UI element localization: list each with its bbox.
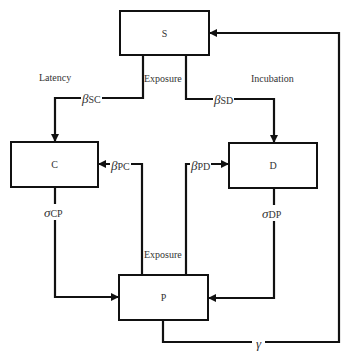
rate-beta-sd: βSD	[213, 91, 234, 107]
rate-gamma-ps: γ	[252, 335, 265, 351]
node-s-label: S	[162, 28, 168, 39]
rate-sigma-dp: σDP	[261, 205, 282, 221]
node-c-label: C	[51, 159, 58, 170]
edge-p-to-d	[186, 164, 228, 275]
label-exposure-bottom: Exposure	[144, 250, 182, 260]
label-latency: Latency	[39, 73, 71, 83]
rate-sigma-cp: σCP	[43, 204, 64, 220]
node-d: D	[228, 142, 318, 189]
node-s: S	[119, 10, 210, 56]
rate-beta-sc: βSC	[81, 90, 102, 106]
node-p-label: P	[161, 292, 167, 303]
edge-c-to-p	[55, 187, 118, 297]
label-exposure-top: Exposure	[144, 74, 182, 84]
rate-beta-pd: βPD	[190, 157, 211, 173]
edge-p-to-c	[99, 164, 142, 275]
label-incubation: Incubation	[251, 74, 294, 84]
node-c: C	[10, 141, 99, 188]
node-p: P	[118, 274, 209, 321]
node-d-label: D	[269, 160, 276, 171]
rate-beta-pc: βPC	[110, 157, 131, 173]
